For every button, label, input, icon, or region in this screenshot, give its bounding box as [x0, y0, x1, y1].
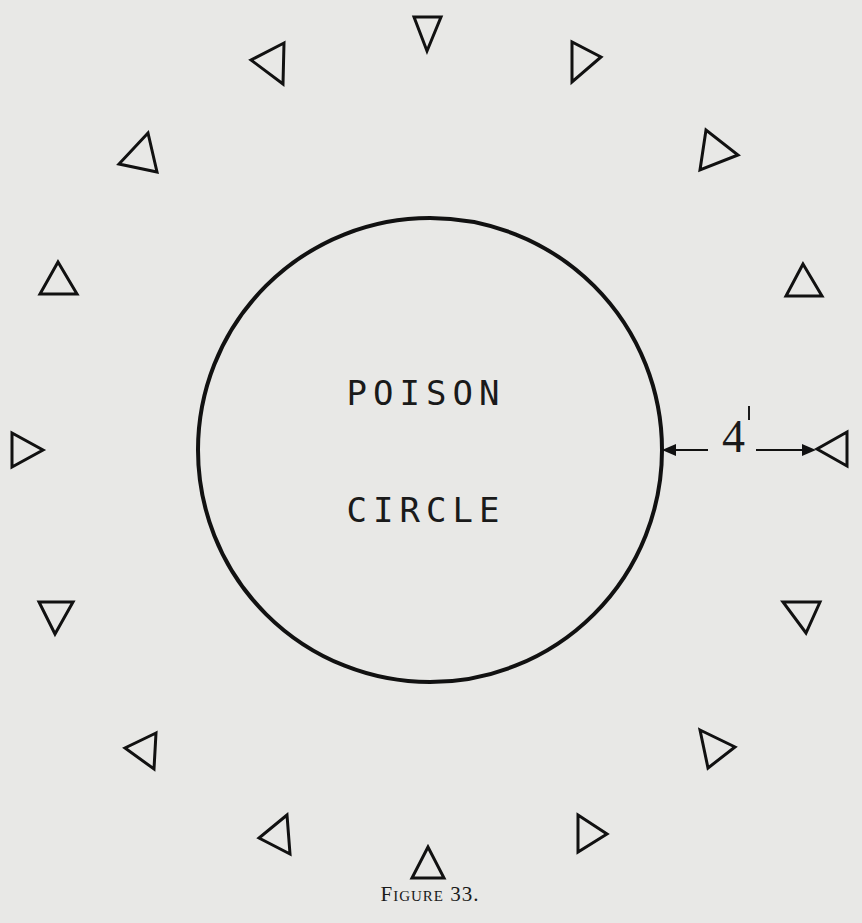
triangle-marker-icon: [414, 17, 441, 51]
triangle-marker-icon: [578, 815, 607, 852]
arrowhead-left-icon: [662, 444, 676, 456]
dimension-value: 4: [722, 414, 745, 460]
triangle-marker-icon: [125, 733, 156, 769]
triangle-marker-icon: [786, 264, 822, 296]
triangle-marker-icon: [700, 730, 735, 768]
circle-label-circle: CIRCLE: [326, 490, 526, 530]
triangle-marker-icon: [39, 602, 73, 634]
arrowhead-right-icon: [802, 444, 816, 456]
triangle-marker-icon: [783, 602, 820, 633]
triangle-marker-icon: [817, 432, 847, 466]
circle-label-poison: POISON: [326, 373, 526, 413]
triangle-marker-icon: [251, 43, 284, 84]
triangle-marker-icon: [40, 262, 77, 294]
triangle-marker-icon: [572, 42, 601, 82]
triangle-marker-icon: [12, 433, 43, 467]
figure-caption: Figure 33.: [330, 882, 530, 907]
triangle-marker-icon: [259, 815, 290, 854]
triangle-marker-icon: [700, 130, 738, 170]
feet-mark: [748, 406, 750, 420]
triangle-marker-icon: [119, 133, 157, 172]
triangle-marker-icon: [412, 847, 444, 878]
poison-circle: [198, 218, 662, 682]
